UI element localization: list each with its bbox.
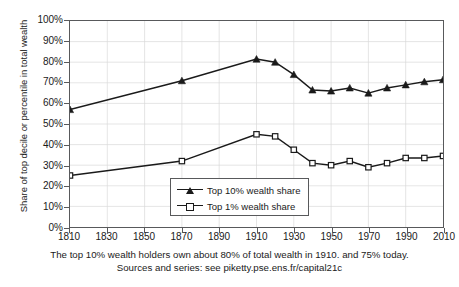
- x-tick-label: 2010: [424, 231, 459, 242]
- data-point-marker: [291, 147, 296, 152]
- y-tick-label: 30%: [19, 161, 63, 171]
- chart-legend[interactable]: Top 10% wealth share Top 1% wealth share: [170, 178, 309, 216]
- legend-item-top1-label: Top 1% wealth share: [207, 201, 295, 212]
- x-tick-mark: [407, 228, 408, 233]
- y-tick-label: 80%: [19, 57, 63, 67]
- data-point-marker: [328, 163, 333, 168]
- y-tick-label: 40%: [19, 140, 63, 150]
- series-top10: [70, 56, 443, 113]
- x-tick-mark: [144, 228, 145, 233]
- chart-caption: The top 10% wealth holders own about 80%…: [0, 248, 459, 274]
- x-tick-mark: [219, 228, 220, 233]
- data-point-marker: [440, 153, 443, 158]
- y-tick-label: 60%: [19, 98, 63, 108]
- data-point-marker: [70, 173, 73, 178]
- chart-figure: Share of top decile or percentile in tot…: [0, 0, 459, 287]
- x-tick-mark: [107, 228, 108, 233]
- data-point-marker: [366, 165, 371, 170]
- y-tick-label: 50%: [19, 119, 63, 129]
- caption-line-2: Sources and series: see piketty.pse.ens.…: [0, 261, 459, 274]
- data-point-marker: [254, 132, 259, 137]
- data-point-marker: [403, 155, 408, 160]
- y-axis-title: Share of top decile or percentile in tot…: [16, 0, 32, 232]
- data-point-marker: [384, 160, 389, 165]
- data-point-marker: [290, 71, 297, 78]
- x-tick-mark: [69, 228, 70, 233]
- data-point-marker: [272, 134, 277, 139]
- data-point-marker: [179, 158, 184, 163]
- legend-item-top1[interactable]: Top 1% wealth share: [177, 198, 308, 214]
- caption-line-1: The top 10% wealth holders own about 80%…: [0, 248, 459, 261]
- y-tick-label: 10%: [19, 202, 63, 212]
- data-point-marker: [310, 160, 315, 165]
- x-tick-mark: [444, 228, 445, 233]
- x-tick-mark: [182, 228, 183, 233]
- y-tick-label: 100%: [19, 15, 63, 25]
- series-top1: [70, 132, 443, 179]
- x-tick-mark: [369, 228, 370, 233]
- data-point-marker: [347, 158, 352, 163]
- legend-item-top10-label: Top 10% wealth share: [207, 185, 300, 196]
- legend-item-top10[interactable]: Top 10% wealth share: [177, 182, 308, 198]
- y-tick-label: 70%: [19, 77, 63, 87]
- x-tick-mark: [294, 228, 295, 233]
- open-square-marker-icon: [177, 200, 203, 212]
- y-tick-label: 90%: [19, 36, 63, 46]
- filled-triangle-marker-icon: [177, 184, 203, 196]
- y-tick-label: 20%: [19, 181, 63, 191]
- data-point-marker: [422, 155, 427, 160]
- x-tick-mark: [257, 228, 258, 233]
- series-line: [70, 134, 443, 175]
- x-tick-mark: [332, 228, 333, 233]
